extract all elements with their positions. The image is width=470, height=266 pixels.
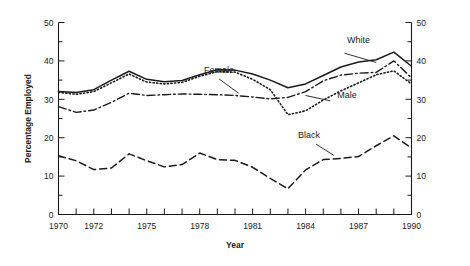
series-label-male: Male [337,90,357,100]
x-tick-label: 1987 [349,221,368,231]
y-tick-label-right: 20 [417,133,427,143]
x-tick-label: 1981 [243,221,262,231]
leader-line-female [219,79,238,93]
y-tick-label-right: 30 [417,95,427,105]
y-tick-label-left: 50 [44,18,54,28]
x-axis-title: Year [226,240,245,250]
series-line-female [59,61,412,112]
series-layer [59,52,412,189]
chart-figure: 01020304050 01020304050 1970197219751978… [0,0,470,266]
series-label-female: Female [204,65,234,75]
y-tick-label-right: 40 [417,56,427,66]
y-tick-label-right: 0 [417,210,422,220]
y-axis-right: 01020304050 [406,18,427,220]
y-tick-label-left: 20 [44,133,54,143]
x-tick-label: 1970 [49,221,68,231]
y-tick-label-left: 10 [44,171,54,181]
y-tick-label-left: 30 [44,95,54,105]
y-tick-label-right: 10 [417,171,427,181]
series-line-male [59,71,412,115]
series-line-black [59,136,412,189]
line-chart-canvas: 01020304050 01020304050 1970197219751978… [0,0,470,266]
y-tick-label-left: 0 [49,210,54,220]
x-axis: 19701972197519781981198419871990 [49,209,421,231]
leader-line-male [306,95,331,100]
x-tick-label: 1972 [84,221,103,231]
leader-line-white [344,53,376,62]
series-label-black: Black [298,130,321,140]
x-tick-label: 1975 [137,221,156,231]
y-axis-left: 01020304050 [44,18,64,220]
y-axis-title: Percentage Employed [23,74,33,163]
x-tick-label: 1990 [402,221,421,231]
y-tick-label-left: 40 [44,56,54,66]
x-tick-label: 1984 [296,221,315,231]
leader-line-black [316,144,334,155]
series-label-white: White [347,35,370,45]
x-tick-label: 1978 [190,221,209,231]
y-tick-label-right: 50 [417,18,427,28]
